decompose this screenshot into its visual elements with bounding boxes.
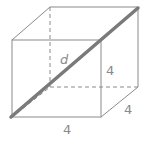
depth-label: 4 (124, 102, 132, 117)
height-label: 4 (106, 63, 114, 78)
cube-diagram: d 4 4 4 (0, 0, 148, 142)
edge-depth-bottom-right (101, 87, 138, 117)
diagonal-label: d (60, 52, 69, 67)
width-label: 4 (63, 122, 71, 137)
edge-depth-top-left (12, 7, 50, 40)
